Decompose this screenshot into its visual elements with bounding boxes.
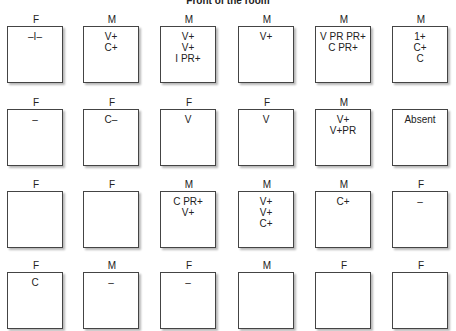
seat-note: – [393,196,447,207]
seat-sex-label: M [238,14,296,26]
seat: MV+V+PR [315,97,373,166]
seat-box [392,272,448,329]
seat-note: V+ [239,207,293,218]
seat-sex-label: F [392,179,450,191]
seat-box [7,191,63,248]
seat-box: – [160,272,216,329]
seat-sex-label [392,97,450,109]
seat: FC– [83,97,141,166]
seat-box: 1+C+C [392,26,448,83]
seat: MV+C+ [83,14,141,83]
seat-box: V+ [238,26,294,83]
seat-sex-label: M [238,260,296,272]
seat: MC PR+V+ [160,179,218,248]
seat: FC [7,260,65,329]
seat-note: V+ [161,42,215,53]
seat-box: V PR PR+C PR+ [315,26,371,83]
seat-note: C+ [393,42,447,53]
seat-note: 1+ [393,31,447,42]
seat-sex-label: M [315,14,373,26]
seat: F [83,179,141,248]
seat-sex-label: F [160,260,218,272]
seat: F–I– [7,14,65,83]
seat-box: – [83,272,139,329]
seat-note: V+ [239,31,293,42]
seat-sex-label: M [160,179,218,191]
seat-box: V+V+PR [315,109,371,166]
seat-note: C+ [239,218,293,229]
seat-sex-label: M [392,14,450,26]
seat-note: C+ [84,42,138,53]
seat-box: V+C+ [83,26,139,83]
seat-sex-label: F [315,260,373,272]
seat-box: – [7,109,63,166]
seat-box: –I– [7,26,63,83]
seat: M– [83,260,141,329]
seat-box: V [160,109,216,166]
seat: F [7,179,65,248]
seat-sex-label: F [83,179,141,191]
seat-note: – [8,114,62,125]
seat: F [392,260,450,329]
seat-box: C [7,272,63,329]
seat-note: –I– [8,31,62,42]
seat-sex-label: F [7,260,65,272]
seat-note: V+ [161,31,215,42]
seat-note: V [239,114,293,125]
front-of-room-label: Front of the room [0,0,456,6]
seat-box: C– [83,109,139,166]
seat-note: V+ [239,196,293,207]
seat-note: V [161,114,215,125]
seat-note: C+ [316,196,370,207]
seat: MV PR PR+C PR+ [315,14,373,83]
seat: F [315,260,373,329]
seat-note: Absent [393,114,447,125]
seat: MC+ [315,179,373,248]
seat-note: C [393,53,447,64]
seat: M1+C+C [392,14,450,83]
seat: F– [7,97,65,166]
seat-note: V+ [316,114,370,125]
seat-box: Absent [392,109,448,166]
seat-sex-label: F [7,179,65,191]
seat-box [83,191,139,248]
seat-sex-label: M [160,14,218,26]
seat-sex-label: F [83,97,141,109]
seat: F– [392,179,450,248]
seat: F– [160,260,218,329]
seat-note: C PR+ [316,42,370,53]
seat-sex-label: F [238,97,296,109]
seat-note: C PR+ [161,196,215,207]
seat-box [238,272,294,329]
seat: MV+V+I PR+ [160,14,218,83]
seat-box: V [238,109,294,166]
seat-note: V+ [161,207,215,218]
seat: M [238,260,296,329]
seat: FV [160,97,218,166]
seat-box: – [392,191,448,248]
seat-note: V+ [84,31,138,42]
seat-sex-label: M [315,179,373,191]
seat-box: V+V+I PR+ [160,26,216,83]
seat-note: – [84,277,138,288]
seat: FV [238,97,296,166]
seat-note: I PR+ [161,53,215,64]
seat-sex-label: F [392,260,450,272]
seat-sex-label: M [83,260,141,272]
seat-note: V PR PR+ [316,31,370,42]
seat-sex-label: M [83,14,141,26]
seat-sex-label: F [160,97,218,109]
seat-box: C+ [315,191,371,248]
seat-box: C PR+V+ [160,191,216,248]
seat-sex-label: M [315,97,373,109]
seat-note: V+PR [316,125,370,136]
seat-sex-label: F [7,14,65,26]
seat-sex-label: F [7,97,65,109]
seat-note: – [161,277,215,288]
seat-box: V+V+C+ [238,191,294,248]
seat-sex-label: M [238,179,296,191]
seat-note: C– [84,114,138,125]
seat: MV+V+C+ [238,179,296,248]
seat-box [315,272,371,329]
seat: MV+ [238,14,296,83]
